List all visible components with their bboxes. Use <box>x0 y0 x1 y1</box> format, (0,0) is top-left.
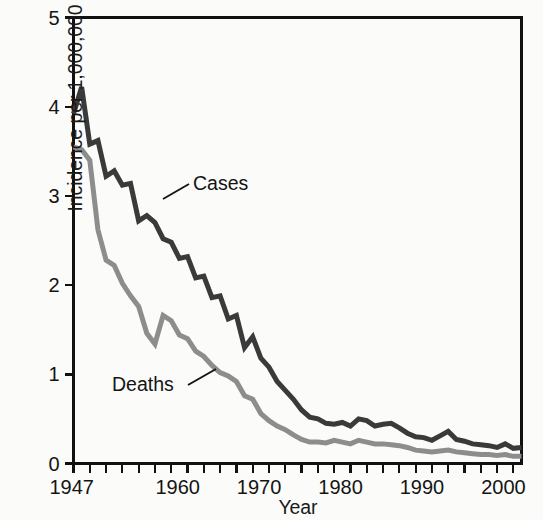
y-axis-label: Incidence per 1,000,000 <box>62 0 88 258</box>
chart-figure: Incidence per 1,000,000 Year 01234519471… <box>0 0 543 520</box>
y-axis-tick-label: 3 <box>32 186 60 206</box>
y-axis-tick-label: 0 <box>32 454 60 474</box>
x-axis-tick-label: 1970 <box>237 477 282 497</box>
x-axis-label: Year <box>73 496 523 519</box>
plot-frame <box>74 18 522 464</box>
x-axis-tick-label: 2000 <box>481 477 526 497</box>
cases-leader-line <box>163 184 189 199</box>
x-axis-tick-label: 1960 <box>155 477 200 497</box>
deaths-leader-line <box>188 369 216 385</box>
x-axis-tick-label: 1980 <box>318 477 363 497</box>
series-annotation-cases: Cases <box>193 173 248 193</box>
series-annotation-deaths: Deaths <box>112 374 174 394</box>
y-axis-tick-label: 2 <box>32 275 60 295</box>
x-axis-tick-label: 1990 <box>400 477 445 497</box>
y-axis-label-text: Incidence per 1,000,000 <box>64 5 87 212</box>
y-axis-tick-label: 4 <box>32 97 60 117</box>
y-axis-tick-label: 1 <box>32 364 60 384</box>
y-axis-tick-label: 5 <box>32 8 60 28</box>
data-series-deaths <box>74 147 522 457</box>
x-axis-tick-label: 1947 <box>50 477 95 497</box>
x-axis-label-text: Year <box>279 496 318 518</box>
